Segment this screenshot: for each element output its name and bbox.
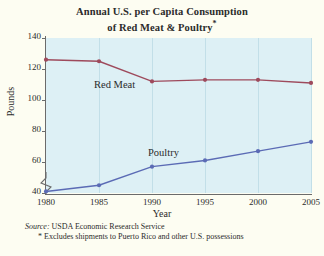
data-point: [203, 78, 207, 82]
data-point: [203, 158, 207, 162]
footnote-source-word: Source:: [25, 222, 50, 231]
data-point: [97, 183, 101, 187]
data-point: [256, 149, 260, 153]
data-point: [97, 59, 101, 63]
data-series-layer: [0, 0, 324, 256]
data-point: [150, 79, 154, 83]
series-label-poultry: Poultry: [148, 147, 179, 158]
data-point: [256, 78, 260, 82]
footnote-source-text: USDA Economic Research Service: [50, 222, 165, 231]
footnotes: Source: USDA Economic Research Service *…: [25, 222, 316, 242]
data-point: [309, 81, 313, 85]
data-point: [44, 189, 48, 193]
data-point: [150, 165, 154, 169]
chart-container: Annual U.S. per Capita Consumption of Re…: [0, 0, 324, 256]
footnote-note: * Excludes shipments to Puerto Rico and …: [25, 232, 316, 242]
data-point: [44, 58, 48, 62]
footnote-source: Source: USDA Economic Research Service: [25, 222, 316, 232]
data-point: [309, 140, 313, 144]
series-line-red-meat: [46, 60, 311, 83]
series-label-red-meat: Red Meat: [94, 79, 135, 90]
